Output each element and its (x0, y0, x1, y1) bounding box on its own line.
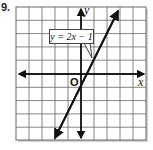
x-axis-label: x (138, 75, 143, 90)
y-axis-label: y (84, 3, 89, 18)
equation-label: y = 2x − 1 (49, 29, 94, 44)
origin-label: O (70, 76, 79, 88)
coordinate-graph (0, 0, 153, 150)
